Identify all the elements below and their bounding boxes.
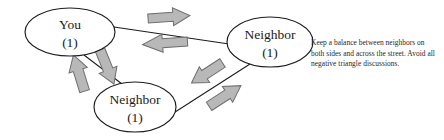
arrow-you-to-neighbor-right-icon (147, 7, 190, 28)
node-you-count: (1) (62, 35, 78, 50)
node-neighbor-bottom[interactable]: Neighbor (1) (94, 82, 176, 132)
neighbor-triangle-diagram: You (1) Neighbor (1) Neighbor (1) (0, 0, 444, 140)
node-neighbor-right-count: (1) (262, 45, 278, 60)
node-you-label: You (59, 17, 81, 32)
arrow-neighbor-bottom-to-neighbor-right-icon (204, 78, 246, 115)
arrow-neighbor-right-to-neighbor-bottom-icon (186, 55, 227, 91)
arrow-neighbor-bottom-to-you-icon (64, 52, 93, 94)
node-neighbor-right[interactable]: Neighbor (1) (227, 17, 313, 67)
node-neighbor-right-label: Neighbor (245, 27, 296, 42)
node-neighbor-bottom-label: Neighbor (110, 92, 161, 107)
node-you[interactable]: You (1) (25, 8, 115, 56)
node-neighbor-bottom-count: (1) (127, 110, 143, 125)
diagram-caption: Keep a balance between neighbors on both… (311, 38, 439, 70)
arrow-neighbor-right-to-you-icon (142, 32, 188, 53)
diagram-canvas: You (1) Neighbor (1) Neighbor (1) Keep a… (0, 0, 444, 140)
